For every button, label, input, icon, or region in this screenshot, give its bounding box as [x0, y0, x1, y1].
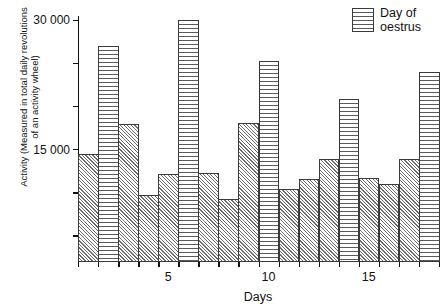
- x-tick-minor-10: [279, 262, 280, 267]
- bar-day-15: [359, 178, 380, 262]
- x-tick-minor-0: [78, 262, 79, 267]
- x-tick-label-15: 15: [362, 270, 376, 284]
- y-tick-15000: [73, 149, 78, 150]
- legend-label-oestrus: Day ofoestrus: [380, 7, 421, 34]
- x-tick-minor-13: [339, 262, 340, 267]
- bar-day-5: [158, 174, 179, 262]
- y-axis-title: Activity (Measured in total daily revolu…: [12, 0, 46, 222]
- plot-area: 51015 Days: [78, 16, 439, 262]
- bar-day-11: [279, 189, 300, 262]
- bar-day-6: [178, 20, 199, 262]
- x-tick-minor-11: [299, 262, 300, 267]
- bar-day-2: [98, 46, 119, 262]
- bar-day-14: [339, 99, 360, 262]
- x-tick-minor-17: [419, 262, 420, 267]
- x-tick-minor-5: [178, 262, 179, 267]
- x-tick-minor-16: [399, 262, 400, 267]
- x-tick-minor-2: [118, 262, 119, 267]
- x-tick-minor-4: [158, 262, 159, 267]
- bar-day-13: [319, 159, 340, 262]
- x-tick-minor-14: [359, 262, 360, 267]
- x-tick-minor-8: [238, 262, 239, 267]
- y-tick-30000: [73, 20, 78, 21]
- bar-day-4: [138, 195, 159, 262]
- bar-day-7: [198, 173, 219, 262]
- bar-day-12: [299, 179, 320, 262]
- bar-day-18: [419, 72, 440, 262]
- y-axis-title-text: Activity (Measured in total daily revolu…: [18, 7, 40, 187]
- x-tick-label-10: 10: [262, 270, 276, 284]
- bar-day-9: [238, 123, 259, 262]
- x-tick-minor-12: [319, 262, 320, 267]
- legend-label-line1: Day of: [380, 6, 416, 20]
- y-tick-label-30000: 30 000: [33, 13, 70, 27]
- x-tick-minor-3: [138, 262, 139, 267]
- legend-swatch-oestrus: [352, 8, 374, 32]
- legend: Day ofoestrus: [352, 8, 421, 34]
- y-tick-25000: [73, 63, 78, 64]
- bar-day-17: [399, 159, 420, 262]
- x-tick-label-5: 5: [165, 270, 172, 284]
- legend-label-line2: oestrus: [380, 20, 421, 34]
- x-tick-minor-6: [198, 262, 199, 267]
- y-tick-label-15000: 15 000: [33, 143, 70, 157]
- bar-day-10: [259, 61, 280, 262]
- bar-day-3: [118, 124, 139, 262]
- x-tick-minor-1: [98, 262, 99, 267]
- bar-day-16: [379, 184, 400, 262]
- bar-day-1: [78, 154, 99, 262]
- bar-day-8: [218, 199, 239, 262]
- x-tick-minor-9: [259, 262, 260, 267]
- x-tick-minor-7: [218, 262, 219, 267]
- x-tick-minor-15: [379, 262, 380, 267]
- y-tick-20000: [73, 106, 78, 107]
- x-axis-title: Days: [244, 290, 272, 304]
